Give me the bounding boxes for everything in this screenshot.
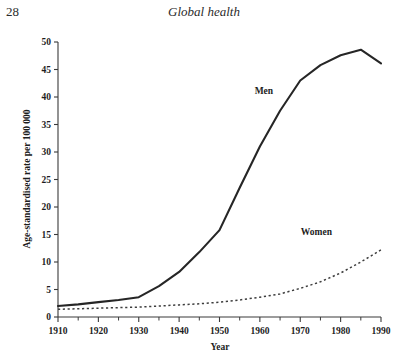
x-tick-label: 1930 — [129, 326, 148, 336]
line-chart-figure: 05101520253035404550 1910192019301940195… — [0, 28, 408, 361]
y-tick-label: 35 — [42, 120, 52, 130]
y-axis-tick-labels: 05101520253035404550 — [42, 37, 52, 322]
y-tick-label: 20 — [42, 202, 52, 212]
series-line-men — [58, 50, 381, 306]
y-tick-label: 25 — [42, 175, 52, 185]
x-tick-label: 1990 — [372, 326, 391, 336]
x-tick-label: 1920 — [89, 326, 108, 336]
x-tick-label: 1970 — [291, 326, 310, 336]
x-axis-tick-labels: 191019201930194019501960197019801990 — [49, 326, 391, 336]
y-tick-label: 30 — [42, 147, 52, 157]
running-head-title: Global health — [0, 4, 408, 20]
x-tick-label: 1910 — [49, 326, 68, 336]
series-label-women: Women — [301, 227, 333, 237]
y-tick-label: 5 — [46, 285, 51, 295]
page-header: 28 Global health — [0, 0, 408, 28]
x-tick-label: 1960 — [250, 326, 269, 336]
x-tick-label: 1940 — [170, 326, 189, 336]
y-tick-label: 10 — [42, 257, 52, 267]
chart-canvas: 05101520253035404550 1910192019301940195… — [0, 28, 408, 361]
y-axis-title: Age-standardised rate per 100 000 — [22, 109, 32, 248]
y-tick-label: 45 — [42, 65, 52, 75]
x-tick-label: 1980 — [331, 326, 350, 336]
y-tick-label: 0 — [46, 312, 51, 322]
x-tick-label: 1950 — [210, 326, 229, 336]
x-axis-title: Year — [211, 342, 231, 352]
series-label-men: Men — [255, 86, 274, 96]
y-tick-label: 15 — [42, 230, 52, 240]
chart-series — [58, 50, 381, 310]
x-axis-ticks — [58, 317, 381, 322]
y-tick-label: 50 — [42, 37, 52, 47]
y-tick-label: 40 — [42, 92, 52, 102]
y-axis-ticks — [54, 42, 58, 317]
